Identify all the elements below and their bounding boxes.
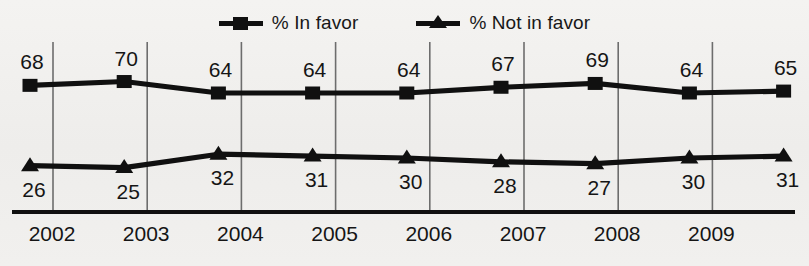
data-label: 27 (588, 176, 611, 199)
data-label: 64 (680, 58, 704, 81)
square-marker-icon (588, 77, 603, 90)
legend-item-not-in-favor: % Not in favor (416, 12, 590, 34)
data-label: 30 (682, 170, 705, 193)
legend-item-in-favor: % In favor (219, 12, 359, 34)
x-axis-label-2008: 2008 (594, 222, 641, 246)
x-axis-labels: 20022003200420052006200720082009 (0, 222, 809, 262)
x-axis-label-2002: 2002 (29, 222, 76, 246)
x-axis-label-2005: 2005 (311, 222, 358, 246)
data-label: 68 (20, 50, 43, 73)
line-chart: 687064646467696465262532313028273031 (0, 40, 809, 220)
x-axis-label-2006: 2006 (405, 222, 452, 246)
data-label: 26 (22, 178, 45, 201)
data-label: 65 (774, 56, 797, 79)
square-marker-icon (776, 85, 791, 98)
legend-label-not-in-favor: % Not in favor (469, 12, 590, 34)
square-marker-icon (211, 87, 226, 100)
x-axis-label-2003: 2003 (123, 222, 170, 246)
chart-plot-area: 687064646467696465262532313028273031 (0, 40, 809, 220)
chart-legend: % In favor % Not in favor (0, 8, 809, 38)
square-marker-icon (117, 75, 132, 88)
square-marker-icon (494, 81, 509, 94)
triangle-marker-icon (416, 15, 460, 31)
data-label: 31 (305, 168, 328, 191)
data-label: 64 (209, 58, 233, 81)
square-marker-icon (682, 87, 697, 100)
legend-label-in-favor: % In favor (272, 12, 359, 34)
chart-page: % In favor % Not in favor 68706464646769… (0, 0, 809, 266)
data-label: 25 (117, 180, 140, 203)
x-axis-label-2007: 2007 (500, 222, 547, 246)
square-marker-icon (399, 87, 414, 100)
data-label: 31 (776, 168, 799, 191)
data-label: 30 (399, 170, 422, 193)
data-label: 28 (493, 174, 516, 197)
square-marker-icon (23, 79, 38, 92)
data-label: 64 (397, 58, 421, 81)
data-label: 69 (586, 48, 609, 71)
data-label: 32 (211, 166, 234, 189)
square-marker-icon (305, 87, 320, 100)
data-label: 67 (491, 52, 514, 75)
data-label: 70 (115, 47, 138, 70)
data-label: 64 (303, 58, 327, 81)
x-axis-label-2009: 2009 (688, 222, 735, 246)
x-axis-label-2004: 2004 (217, 222, 264, 246)
square-marker-icon (219, 15, 263, 31)
